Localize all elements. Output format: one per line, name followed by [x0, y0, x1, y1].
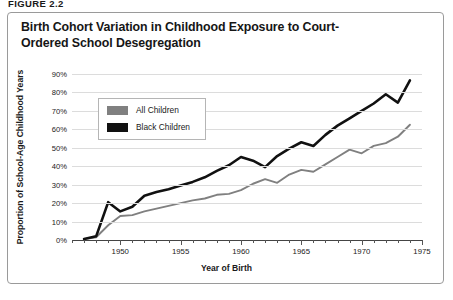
y-axis-tick-label: 80%: [27, 88, 67, 97]
chart-legend: All Children Black Children: [98, 98, 206, 140]
x-axis-minor-tick: [96, 240, 97, 243]
gridline: [72, 148, 422, 149]
legend-label-all-children: All Children: [136, 105, 179, 115]
y-axis-tick-label: 50%: [27, 143, 67, 152]
x-axis-major-tick: [301, 240, 302, 245]
legend-label-black-children: Black Children: [136, 122, 190, 132]
x-axis-minor-tick: [169, 240, 170, 243]
x-axis-minor-tick: [205, 240, 206, 243]
x-axis-minor-tick: [277, 240, 278, 243]
x-axis-tick-label: 1975: [413, 247, 430, 256]
gridline: [72, 185, 422, 186]
gridline: [72, 92, 422, 93]
legend-item-black-children: Black Children: [107, 122, 190, 132]
x-axis-major-tick: [422, 240, 423, 245]
gridline: [72, 166, 422, 167]
x-axis-minor-tick: [84, 240, 85, 243]
y-axis-title-text: Proportion of School-Age Childhood Years: [15, 70, 25, 245]
x-axis-major-tick: [181, 240, 182, 245]
x-axis-tick-label: 1965: [293, 247, 310, 256]
y-axis-tick-label: 60%: [27, 125, 67, 134]
x-axis-minor-tick: [374, 240, 375, 243]
x-axis-minor-tick: [144, 240, 145, 243]
x-axis-minor-tick: [156, 240, 157, 243]
x-axis-major-tick: [120, 240, 121, 245]
x-axis-tick-label: 1950: [112, 247, 129, 256]
x-axis-minor-tick: [72, 240, 73, 243]
x-axis-minor-tick: [350, 240, 351, 243]
y-axis-tick-label: 0%: [27, 236, 67, 245]
gridline: [72, 203, 422, 204]
chart-title: Birth Cohort Variation in Childhood Expo…: [21, 20, 351, 51]
x-axis-minor-tick: [325, 240, 326, 243]
gridline: [72, 74, 422, 75]
x-axis-minor-tick: [217, 240, 218, 243]
x-axis-minor-tick: [229, 240, 230, 243]
x-axis-tick-label: 1970: [353, 247, 370, 256]
y-axis-tick-label: 30%: [27, 180, 67, 189]
figure-page: FIGURE 2.2 Birth Cohort Variation in Chi…: [0, 0, 453, 300]
x-axis-line: [72, 240, 422, 241]
x-axis-tick-label: 1960: [232, 247, 249, 256]
x-axis-minor-tick: [338, 240, 339, 243]
x-axis-major-tick: [362, 240, 363, 245]
y-axis-tick-label: 70%: [27, 106, 67, 115]
x-axis-minor-tick: [265, 240, 266, 243]
x-axis-tick-label: 1955: [172, 247, 189, 256]
figure-number-label: FIGURE 2.2: [8, 0, 64, 9]
y-axis-tick-label: 40%: [27, 162, 67, 171]
gridline: [72, 222, 422, 223]
x-axis-minor-tick: [386, 240, 387, 243]
x-axis-minor-tick: [289, 240, 290, 243]
y-axis-tick-label: 90%: [27, 70, 67, 79]
legend-swatch-all-children: [107, 106, 128, 115]
x-axis-minor-tick: [253, 240, 254, 243]
x-axis-minor-tick: [108, 240, 109, 243]
x-axis-minor-tick: [398, 240, 399, 243]
x-axis-minor-tick: [193, 240, 194, 243]
x-axis-major-tick: [241, 240, 242, 245]
x-axis-title: Year of Birth: [0, 263, 453, 273]
y-axis-tick-label: 20%: [27, 199, 67, 208]
x-axis-minor-tick: [410, 240, 411, 243]
legend-swatch-black-children: [107, 123, 128, 132]
legend-item-all-children: All Children: [107, 105, 179, 115]
y-axis-tick-label: 10%: [27, 217, 67, 226]
x-axis-minor-tick: [132, 240, 133, 243]
x-axis-minor-tick: [313, 240, 314, 243]
y-axis-title: Proportion of School-Age Childhood Years: [14, 74, 26, 240]
